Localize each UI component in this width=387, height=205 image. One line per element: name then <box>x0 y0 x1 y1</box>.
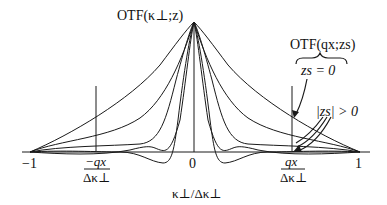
tick-label-pos-qx-den: Δκ⊥ <box>280 170 307 185</box>
tick-label-minus-one: −1 <box>22 156 37 171</box>
title-otf-qx-zs: OTF(qx;zs) <box>290 37 356 53</box>
arrow-zs-zero <box>296 79 307 114</box>
title-otf-kappa-z: OTF(κ⊥;z) <box>117 8 183 24</box>
label-zs-nonzero: |zs| > 0 <box>316 104 358 119</box>
x-axis-label: κ⊥/Δκ⊥ <box>172 186 222 201</box>
tick-label-neg-qx-den: Δκ⊥ <box>83 170 110 185</box>
tick-label-one: 1 <box>355 156 362 171</box>
tick-label-zero: 0 <box>189 156 196 171</box>
tick-label-neg-qx-num: −qx <box>85 154 106 169</box>
label-zs-zero: zs = 0 <box>300 63 335 78</box>
tick-label-pos-qx-num: qx <box>285 154 298 169</box>
otf-diagram: OTF(κ⊥;z) OTF(qx;zs) zs = 0 |zs| > 0 −1 … <box>0 0 387 205</box>
